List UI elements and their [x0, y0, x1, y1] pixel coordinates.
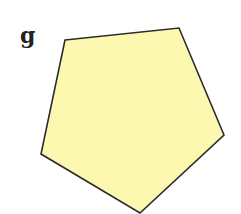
pentagon-figure [0, 0, 241, 214]
pentagon-shape [41, 28, 224, 213]
